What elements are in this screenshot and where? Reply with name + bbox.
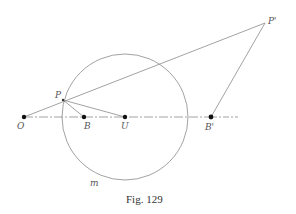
line-P-prime-B-prime: [211, 23, 265, 117]
label-B-prime: B': [204, 122, 214, 132]
point-P: [62, 99, 64, 101]
line-O-P-prime: [24, 23, 265, 117]
point-B: [82, 115, 86, 119]
label-P-prime: P': [267, 16, 277, 26]
label-O: O: [17, 121, 25, 131]
line-P-U: [63, 100, 125, 117]
label-m: m: [90, 178, 99, 188]
figure-caption: Fig. 129: [126, 193, 163, 205]
diagram-figure-129: P P' O B U B' m Fig. 129: [0, 0, 296, 214]
point-O: [22, 115, 26, 119]
point-B-prime: [209, 115, 214, 120]
label-U: U: [121, 121, 129, 131]
label-B: B: [83, 121, 91, 131]
point-U: [123, 115, 127, 119]
label-P: P: [54, 90, 62, 100]
